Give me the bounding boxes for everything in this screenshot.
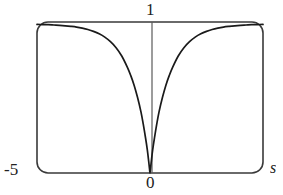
x-axis-min-tick-label: -5 — [4, 161, 18, 178]
chart-canvas — [0, 0, 283, 195]
chart-figure: 1 -5 0 s — [0, 0, 283, 195]
x-axis-origin-tick-label: 0 — [146, 174, 155, 191]
y-axis-max-tick-label: 1 — [146, 1, 155, 18]
plot-frame — [37, 22, 263, 173]
x-axis-variable-label: s — [270, 160, 276, 176]
